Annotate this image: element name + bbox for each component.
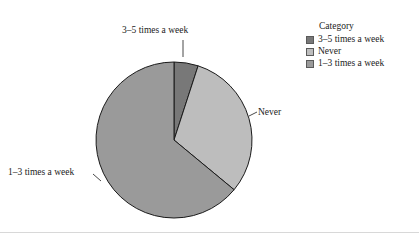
pie-chart-figure: 3–5 times a week Never 1–3 times a week … <box>0 0 419 233</box>
legend-swatch <box>306 60 314 68</box>
legend-item-label: 1–3 times a week <box>318 59 384 69</box>
legend-item: Never <box>306 46 416 57</box>
slice-label-never: Never <box>258 108 281 118</box>
slice-label-1-3-times-a-week: 1–3 times a week <box>8 168 74 178</box>
legend-items: 3–5 times a weekNever1–3 times a week <box>306 34 416 69</box>
legend-item-label: 3–5 times a week <box>318 35 384 45</box>
legend-item: 1–3 times a week <box>306 58 416 69</box>
legend-item: 3–5 times a week <box>306 34 416 45</box>
slice-label-3-5-times-a-week: 3–5 times a week <box>122 26 188 36</box>
leader-line-left <box>93 174 101 181</box>
legend-item-label: Never <box>318 47 341 57</box>
legend-title: Category <box>319 22 416 32</box>
legend-swatch <box>306 36 314 44</box>
leader-line-right <box>249 112 257 116</box>
pie-slice-group <box>96 62 252 218</box>
legend-swatch <box>306 48 314 56</box>
bottom-divider <box>0 232 419 233</box>
legend: Category 3–5 times a weekNever1–3 times … <box>306 22 416 70</box>
